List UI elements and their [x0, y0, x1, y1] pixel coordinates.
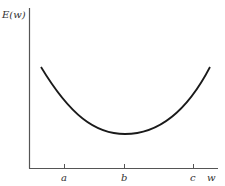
tick-label-c: c	[190, 172, 196, 183]
x-axis-label: w	[207, 172, 216, 183]
tick-label-b: b	[121, 172, 127, 183]
energy-curve-diagram: E(w) a b c w	[0, 0, 225, 186]
y-axis-label: E(w)	[1, 9, 26, 20]
tick-label-a: a	[61, 172, 67, 183]
energy-curve	[41, 67, 210, 134]
